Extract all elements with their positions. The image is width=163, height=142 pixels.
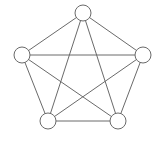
complete-graph-diagram — [0, 0, 163, 142]
node-right — [135, 47, 151, 63]
edge-n0-n3 — [48, 13, 83, 121]
node-left — [14, 47, 30, 63]
edge-n0-n4 — [83, 13, 118, 121]
edge-n2-n4 — [118, 55, 143, 121]
edge-n0-n2 — [83, 13, 143, 55]
edge-n1-n4 — [22, 55, 118, 121]
node-bottom-right — [110, 113, 126, 129]
node-top — [75, 5, 91, 21]
node-bottom-left — [40, 113, 56, 129]
edge-n1-n3 — [22, 55, 48, 121]
edge-n0-n1 — [22, 13, 83, 55]
edges-group — [22, 13, 143, 121]
nodes-group — [14, 5, 151, 129]
edge-n2-n3 — [48, 55, 143, 121]
